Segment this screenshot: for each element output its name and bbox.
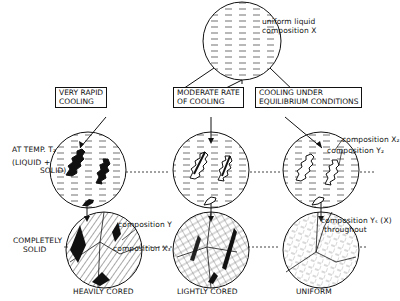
box-equilibrium-cooling: COOLING UNDER EQUILIBRIUM CONDITIONS — [255, 87, 362, 108]
box-moderate-cooling: MODERATE RATE OF COOLING — [173, 87, 244, 108]
annotation-composition-y: composition Y — [118, 221, 172, 230]
row-label-completely-solid: COMPLETELY SOLID — [13, 237, 62, 254]
annotation-ys-line2: throughout — [321, 226, 392, 235]
middle-circle-moderate — [173, 132, 249, 208]
box-very-rapid-cooling: VERY RAPID COOLING — [55, 87, 107, 108]
annotation-composition-x2: composition X₂ — [342, 136, 400, 145]
result-lightly-cored: LIGHTLY CORED — [177, 288, 238, 297]
bottom-circle-lightly-cored — [173, 212, 249, 288]
row-middle-line1: AT TEMP. T₂ — [12, 146, 66, 155]
result-heavily-cored: HEAVILY CORED — [73, 288, 134, 297]
row-middle-line3: SOLID) — [12, 167, 66, 176]
liquid-label-line2: composition X — [262, 27, 317, 36]
liquid-circle — [203, 2, 281, 80]
annotation-composition-x3: composition X₃ — [113, 245, 171, 254]
liquid-label: uniform liquid composition X — [262, 18, 317, 35]
box-rapid-line2: COOLING — [59, 98, 103, 107]
result-uniform: UNIFORM — [296, 288, 332, 297]
row-label-liquid-solid: AT TEMP. T₂ (LIQUID + SOLID) — [12, 146, 66, 176]
annotation-composition-y2: composition Y₂ — [327, 147, 384, 156]
annotation-composition-ys: composition Yₛ (X) throughout — [321, 217, 392, 234]
row-bottom-line2: SOLID — [13, 246, 62, 255]
box-equilibrium-line2: EQUILIBRIUM CONDITIONS — [259, 98, 358, 107]
box-moderate-line2: OF COOLING — [177, 98, 240, 107]
